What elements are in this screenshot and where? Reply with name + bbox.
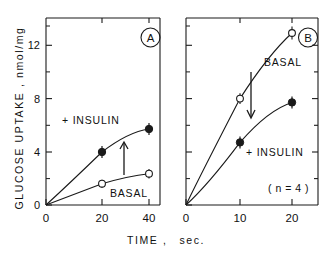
- panel-b-y-right-ticks: [312, 45, 318, 178]
- panel-b-n-label: ( n = 4 ): [268, 182, 309, 194]
- panel-a-insulin-marker-20: [98, 148, 105, 155]
- panel-b-insulin-label: + INSULIN: [246, 146, 304, 158]
- panel-a-insulin-marker-40: [145, 125, 152, 132]
- panel-b-xtick-0: 0: [183, 212, 189, 224]
- panel-b-xtick-20: 20: [286, 212, 299, 224]
- panel-a-up-arrow-icon: [120, 142, 128, 175]
- panel-a-basal-points: [102, 169, 149, 188]
- panel-a-xtick-20: 20: [96, 212, 109, 224]
- panel-a-xtick-40: 40: [143, 212, 156, 224]
- panel-b-y-minor-ticks: [186, 26, 190, 179]
- panel-b-x-ticks-top: [240, 18, 292, 23]
- panel-a-axes-frame: [46, 18, 160, 205]
- panel-b-basal-marker-20: [289, 30, 296, 37]
- plot-svg: 0 4 8 12 0 20 40: [0, 0, 332, 257]
- panel-b-x-ticks: [186, 199, 292, 205]
- x-axis-label-unit: sec.: [179, 234, 205, 246]
- panel-b-basal-marker-10: [237, 95, 244, 102]
- panel-a-letter: A: [147, 32, 155, 44]
- panel-a-xtick-0: 0: [43, 212, 49, 224]
- panel-b-xtick-10: 10: [234, 212, 247, 224]
- x-axis-label-main: TIME ,: [127, 234, 168, 246]
- panel-a-x-ticks-top: [102, 18, 149, 23]
- panel-b-insulin-marker-10: [236, 139, 243, 146]
- panel-b-letter: B: [304, 32, 312, 44]
- panel-a-insulin-label: + INSULIN: [62, 114, 120, 126]
- panel-b-insulin-marker-20: [288, 99, 295, 106]
- x-axis-label: TIME ,sec.: [0, 234, 332, 246]
- panel-a-insulin-points: [102, 123, 149, 158]
- panel-a-ytick-12: 12: [28, 39, 40, 51]
- panel-a-basal-marker-20: [99, 180, 106, 187]
- panel-a: 0 4 8 12 0 20 40: [28, 18, 160, 224]
- panel-b: 0 10 20: [183, 18, 318, 224]
- panel-a-x-ticks: [46, 199, 149, 205]
- panel-b-insulin-points: [240, 96, 292, 148]
- panel-a-ytick-4: 4: [34, 146, 40, 158]
- panel-a-ytick-0: 0: [34, 199, 40, 211]
- panel-a-basal-label: BASAL: [110, 187, 148, 199]
- panel-b-axes-frame: [186, 18, 318, 205]
- y-axis-label: GLUCOSE UPTAKE , nmol/mg: [13, 13, 25, 223]
- panel-a-basal-marker-40: [146, 170, 153, 177]
- figure-container: GLUCOSE UPTAKE , nmol/mg TIME ,sec.: [0, 0, 332, 257]
- panel-a-ytick-8: 8: [34, 93, 40, 105]
- panel-a-y-minor-ticks: [46, 26, 50, 179]
- panel-b-basal-label: BASAL: [264, 56, 302, 68]
